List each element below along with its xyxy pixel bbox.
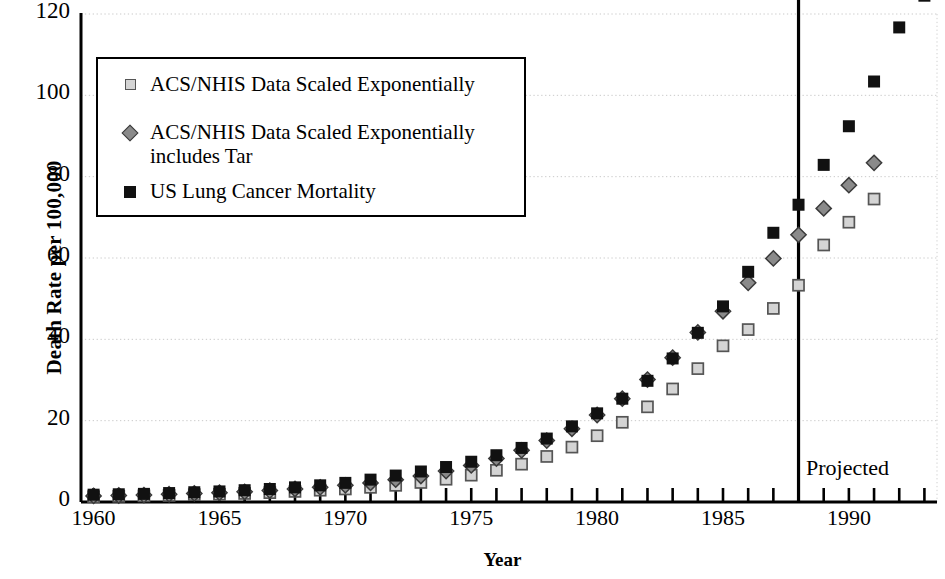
data-point-filled-square [163, 487, 175, 499]
legend-item-acs-nhis-exponential: ACS/NHIS Data Scaled Exponentially [116, 73, 475, 97]
data-point-open-square [541, 451, 552, 462]
data-point-filled-square [717, 300, 729, 312]
chart-figure: 020406080100120 196019651970197519801985… [0, 0, 945, 579]
data-point-filled-square [793, 199, 805, 211]
data-point-filled-square [113, 488, 125, 500]
legend-label: ACS/NHIS Data Scaled Exponentially [144, 73, 475, 97]
legend-item-us-lung-cancer-mortality: US Lung Cancer Mortality [116, 180, 376, 204]
data-point-open-square [718, 340, 729, 351]
x-axis-title-text: Year [484, 549, 522, 570]
data-point-filled-square [641, 375, 653, 387]
data-point-filled-square [893, 21, 905, 33]
open-square-icon [116, 73, 144, 90]
y-axis-title: Death Rate per 100,000 [42, 118, 67, 418]
filled-square-icon [116, 180, 144, 198]
data-point-open-square [667, 383, 678, 394]
data-point-filled-square [390, 470, 402, 482]
legend-label: ACS/NHIS Data Scaled Exponentially inclu… [144, 121, 475, 168]
x-axis-tick-label: 1960 [72, 505, 116, 531]
data-point-filled-square [616, 393, 628, 405]
data-point-filled-square [138, 488, 150, 500]
data-point-filled-square [365, 474, 377, 486]
data-point-filled-square [440, 461, 452, 473]
x-axis-tick-label: 1985 [701, 505, 745, 531]
data-point-open-square [516, 459, 527, 470]
y-axis-tick-label: 0 [4, 487, 70, 510]
data-point-filled-square [264, 483, 276, 495]
data-point-filled-square [213, 485, 225, 497]
data-point-open-square [566, 442, 577, 453]
data-point-filled-square [415, 466, 427, 478]
data-point-filled-square [868, 76, 880, 88]
x-axis-tick-label: 1980 [575, 505, 619, 531]
data-point-filled-square [843, 120, 855, 132]
x-axis-tick-label: 1965 [197, 505, 241, 531]
data-point-filled-square [818, 159, 830, 171]
data-point-filled-square [541, 433, 553, 445]
legend-item-acs-nhis-exponential-tar: ACS/NHIS Data Scaled Exponentially inclu… [116, 121, 475, 168]
x-axis-title: Year [0, 549, 945, 571]
data-point-filled-square [314, 479, 326, 491]
data-point-open-square [869, 194, 880, 205]
data-point-filled-square [742, 266, 754, 278]
data-point-filled-square [289, 481, 301, 493]
data-point-open-square [692, 363, 703, 374]
data-point-open-square [617, 417, 628, 428]
diamond-icon [116, 121, 144, 139]
data-point-diamond [816, 201, 831, 216]
projected-annotation: Projected [806, 455, 889, 481]
data-point-diamond [766, 251, 781, 266]
x-axis-tick-label: 1970 [323, 505, 367, 531]
data-point-filled-square [566, 420, 578, 432]
data-point-filled-square [918, 0, 930, 2]
y-axis-tick-label: 120 [4, 0, 70, 22]
data-point-filled-square [490, 449, 502, 461]
data-point-filled-square [767, 227, 779, 239]
legend-label: US Lung Cancer Mortality [144, 180, 376, 204]
x-axis-tick-label: 1975 [449, 505, 493, 531]
data-point-open-square [793, 280, 804, 291]
data-point-filled-square [667, 352, 679, 364]
data-point-open-square [843, 217, 854, 228]
data-point-filled-square [516, 442, 528, 454]
data-point-filled-square [591, 407, 603, 419]
data-point-filled-square [88, 489, 100, 501]
data-point-diamond [791, 227, 806, 242]
data-point-filled-square [339, 477, 351, 489]
data-point-diamond [866, 155, 881, 170]
data-point-filled-square [188, 486, 200, 498]
chart-legend: ACS/NHIS Data Scaled Exponentially ACS/N… [96, 57, 526, 217]
data-point-open-square [592, 430, 603, 441]
data-point-filled-square [465, 456, 477, 468]
data-point-open-square [642, 401, 653, 412]
data-point-filled-square [692, 327, 704, 339]
data-point-diamond [841, 178, 856, 193]
y-axis-tick-label: 100 [4, 80, 70, 103]
x-axis-tick-label: 1990 [827, 505, 871, 531]
data-point-filled-square [239, 484, 251, 496]
data-point-open-square [768, 303, 779, 314]
data-point-open-square [818, 239, 829, 250]
data-point-open-square [743, 324, 754, 335]
